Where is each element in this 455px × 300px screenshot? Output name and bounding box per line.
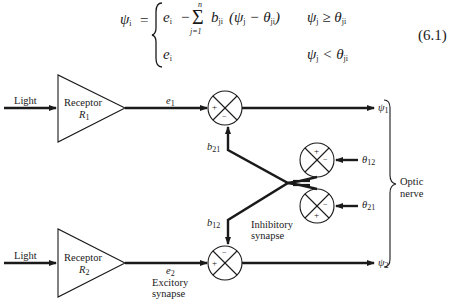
theta12-sub: 12: [367, 158, 375, 167]
receptor-r1-triangle: [58, 75, 125, 142]
threshold21-plus: +: [314, 211, 319, 220]
summer-bottom-plus: +: [212, 259, 217, 268]
receptor-r1-symbol: R1: [79, 110, 89, 122]
b12-sub: 12: [212, 221, 220, 230]
inhibitory-label-line1: Inhibitory: [251, 220, 293, 231]
receptor-r1-sub: 1: [85, 113, 89, 122]
optic-nerve-label-line1: Optic: [400, 177, 423, 188]
threshold21-minus: −: [323, 201, 328, 209]
summer-top-plus: +: [212, 103, 217, 112]
receptor-r2-symbol: R2: [79, 265, 89, 277]
psi1-label: ψ1: [378, 103, 389, 115]
receptor-r2-label: Receptor: [64, 253, 102, 264]
optic-nerve-label-line2: nerve: [400, 189, 423, 200]
optic-nerve-brace: [384, 100, 396, 267]
inhibitory-label-line2: synapse: [251, 231, 284, 242]
receptor-r2-sub: 2: [85, 268, 89, 277]
lateral-inhibition-figure: ψi = ei − n Σ j=1 bji (ψj − θji) ψj ≥ θj…: [0, 0, 455, 300]
psi1-sub: 1: [385, 106, 389, 115]
excitory-label-line2: synapse: [152, 289, 185, 300]
theta21-label: θ21: [362, 200, 375, 212]
threshold12-plus: +: [314, 147, 319, 156]
receptor-r1-label: Receptor: [64, 98, 102, 109]
psi2-label: ψ2: [378, 258, 389, 270]
threshold12-minus: −: [323, 156, 328, 164]
theta21-sub: 21: [367, 203, 375, 212]
b12-label: b12: [207, 218, 220, 230]
psi2-sub: 2: [385, 261, 389, 270]
e1-label: e1: [166, 96, 175, 108]
light-label-top: Light: [14, 96, 37, 107]
b21-label: b21: [207, 142, 220, 154]
e1-sub: 1: [171, 99, 175, 108]
excitory-label-line1: Excitory: [152, 278, 188, 289]
theta12-label: θ12: [362, 155, 375, 167]
summer-bottom-minus: −: [222, 249, 227, 257]
summer-top-minus: −: [222, 113, 227, 121]
b21-sub: 21: [212, 145, 220, 154]
light-label-bottom: Light: [14, 251, 37, 262]
